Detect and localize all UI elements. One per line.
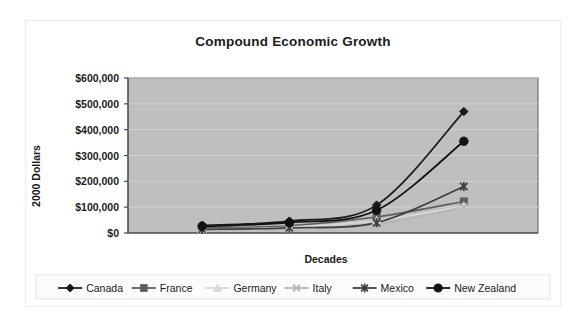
legend-label-germany: Germany <box>233 282 277 294</box>
marker-circle <box>460 137 469 146</box>
y-axis-tick-label: $200,000 <box>75 175 119 187</box>
y-axis-tick-label: $400,000 <box>75 124 119 136</box>
legend-label-mexico: Mexico <box>381 282 414 294</box>
legend-label-france: France <box>160 282 193 294</box>
y-axis-tick-label: $600,000 <box>75 72 119 84</box>
chart-title: Compound Economic Growth <box>195 34 390 49</box>
y-axis-tick-label: $100,000 <box>75 201 119 213</box>
y-axis-title: 2000 Dollars <box>30 145 42 207</box>
chart-frame: Compound Economic Growth 2000 Dollars $0… <box>25 20 561 307</box>
marker-square <box>140 285 147 292</box>
marker-circle <box>434 284 442 292</box>
legend-label-canada: Canada <box>86 282 123 294</box>
marker-circle <box>372 206 381 215</box>
economic-growth-line-chart: Compound Economic Growth 2000 Dollars $0… <box>26 21 560 306</box>
y-axis-tick-label: $500,000 <box>75 98 119 110</box>
x-axis-title: Decades <box>304 253 347 265</box>
marker-circle <box>285 218 294 227</box>
y-axis-tick-label: $300,000 <box>75 150 119 162</box>
chart-legend: CanadaFranceGermanyItalyMexicoNew Zealan… <box>36 275 550 299</box>
y-axis-tick-label: $0 <box>107 227 119 239</box>
marker-circle <box>198 222 207 231</box>
chart-figure: Compound Economic Growth 2000 Dollars $0… <box>0 0 586 327</box>
legend-label-italy: Italy <box>313 282 333 294</box>
legend-label-new-zealand: New Zealand <box>454 282 516 294</box>
legend-item-new-zealand[interactable]: New Zealand <box>426 282 516 294</box>
y-axis-tick-labels: $0$100,000$200,000$300,000$400,000$500,0… <box>75 72 119 239</box>
